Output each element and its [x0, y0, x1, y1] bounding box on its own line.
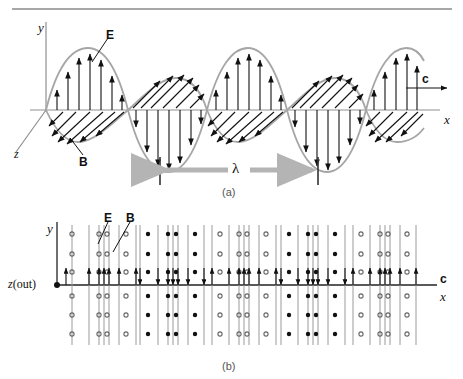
panel-b-x-axis-label: x — [440, 289, 446, 305]
e-arrows-lobe-2 — [136, 110, 201, 170]
panel-a-z-axis — [16, 110, 46, 152]
z-out-origin-dot — [54, 282, 60, 288]
panel-b-z-axis-label: z(out) — [8, 277, 36, 292]
panel-a-x-axis-label: x — [444, 112, 450, 128]
wavelength-label: λ — [232, 160, 239, 177]
panel-b-b-label: B — [126, 211, 135, 225]
panel-a-caption: (a) — [222, 186, 235, 198]
em-wave-figure: y x z E B c λ (a) y x z(out) E B c (b) — [0, 0, 463, 379]
b-label-leader-b — [113, 222, 130, 252]
e-arrows-lobe-5 — [374, 54, 417, 110]
panel-a-e-label: E — [106, 28, 114, 42]
panel-b — [54, 222, 437, 345]
e-arrows-lobe-1 — [57, 54, 122, 110]
b-arrows-lobe-1 — [49, 112, 124, 144]
panel-b-e-label: E — [104, 211, 112, 225]
panel-a-y-axis-label: y — [38, 20, 44, 36]
e-arrows-lobe-4 — [295, 110, 360, 170]
panel-a-z-axis-label: z — [14, 147, 19, 162]
panel-b-c-label: c — [440, 272, 447, 286]
panel-b-caption: (b) — [222, 360, 235, 372]
panel-a-c-label: c — [422, 72, 429, 86]
panel-a-b-label: B — [79, 155, 88, 169]
b-arrows-lobe-3 — [208, 112, 283, 144]
panel-b-y-axis-label: y — [47, 221, 53, 237]
b-arrows-lobe-2 — [133, 75, 204, 108]
b-arrows-lobe-4 — [292, 75, 363, 108]
